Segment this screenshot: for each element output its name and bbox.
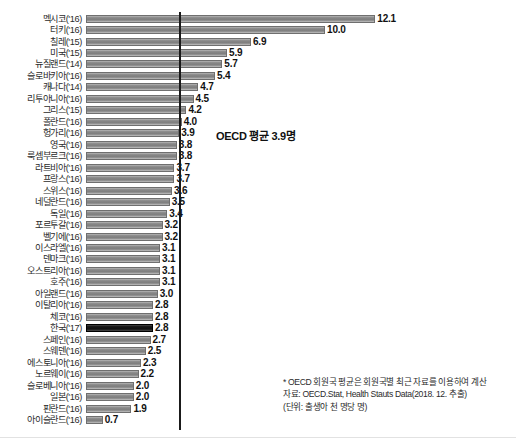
bar — [86, 393, 134, 401]
bar — [86, 198, 170, 206]
bar — [86, 49, 227, 57]
bar — [86, 278, 160, 286]
bar — [86, 255, 160, 263]
bar — [86, 26, 325, 34]
bar — [86, 95, 194, 103]
bar — [86, 15, 375, 23]
bar — [86, 405, 131, 413]
bar — [86, 301, 153, 309]
bar — [86, 382, 134, 390]
bar — [86, 164, 174, 172]
bar — [86, 267, 160, 275]
bar — [86, 152, 177, 160]
bar — [86, 141, 177, 149]
bar — [86, 129, 179, 137]
bar — [86, 290, 158, 298]
bar — [86, 106, 186, 114]
bar — [86, 313, 153, 321]
oecd-average-annotation: OECD 평균 3.9명 — [216, 130, 296, 143]
bottom-divider — [0, 437, 516, 438]
bar-highlighted — [86, 324, 153, 332]
bar — [86, 359, 141, 367]
bar — [86, 347, 146, 355]
bar — [86, 370, 139, 378]
footnote-line-2: 자료: OECD.Stat, Health Stauts Data(2018. … — [283, 388, 513, 400]
oecd-average-reference-line — [179, 12, 180, 430]
bar — [86, 416, 103, 424]
bar — [86, 38, 251, 46]
bar — [86, 336, 151, 344]
country-label: 아이슬란드('16) — [0, 415, 82, 425]
footnote-block: * OECD 회원국 평균은 회원국별 최근 자료를 이용하여 계산 자료: O… — [283, 376, 513, 413]
bar — [86, 118, 182, 126]
bar-value-label: 0.7 — [105, 415, 118, 425]
plot-area: 멕시코('16)12.1터키('16)10.0칠레('15)6.9미국('15)… — [0, 0, 516, 440]
bar — [86, 72, 215, 80]
bar — [86, 210, 167, 218]
bar-row: 아이슬란드('16)0.7 — [0, 412, 516, 427]
oecd-infant-mortality-bar-chart: 멕시코('16)12.1터키('16)10.0칠레('15)6.9미국('15)… — [0, 0, 516, 447]
footnote-line-1: * OECD 회원국 평균은 회원국별 최근 자료를 이용하여 계산 — [283, 376, 513, 388]
bar — [86, 175, 174, 183]
bar — [86, 60, 222, 68]
bar — [86, 233, 163, 241]
bar — [86, 221, 163, 229]
bar — [86, 187, 172, 195]
bar — [86, 83, 198, 91]
footnote-line-3: (단위: 출생아 천 명당 명) — [283, 401, 513, 413]
bar — [86, 244, 160, 252]
